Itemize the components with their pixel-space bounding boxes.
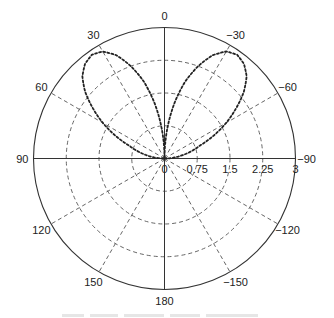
angle-tick-label: 120	[32, 224, 50, 236]
angle-tick-label: −90	[297, 153, 316, 165]
angle-tick-label: 0	[161, 10, 167, 22]
angle-tick-label: −30	[226, 29, 245, 41]
angle-tick-label: 30	[87, 29, 99, 41]
angle-tick-label: 90	[16, 153, 28, 165]
angle-tick-label: 180	[155, 295, 173, 307]
radial-tick-label: 1.5	[222, 163, 237, 175]
angle-tick-label: −120	[275, 224, 300, 236]
polar-chart: 0306090120150180−150−120−90−60−30 00.751…	[0, 0, 334, 318]
angle-tick-label: 60	[35, 81, 47, 93]
figure-caption-clipped	[62, 311, 274, 318]
radial-tick-label: 0.75	[187, 163, 208, 175]
grid-spoke	[99, 45, 165, 158]
angle-tick-label: 150	[84, 276, 102, 288]
grid-spoke	[99, 159, 165, 272]
radial-tick-labels: 00.751.52.253	[161, 163, 298, 175]
radial-tick-label: 0	[161, 163, 167, 175]
grid-spoke	[51, 93, 164, 159]
grid-spoke	[165, 93, 278, 159]
angle-tick-label: −150	[223, 276, 248, 288]
radial-tick-label: 2.25	[252, 163, 273, 175]
grid-spoke	[165, 159, 231, 272]
radial-tick-label: 3	[292, 163, 298, 175]
grid-spoke	[51, 159, 164, 225]
angle-tick-label: −60	[278, 81, 297, 93]
